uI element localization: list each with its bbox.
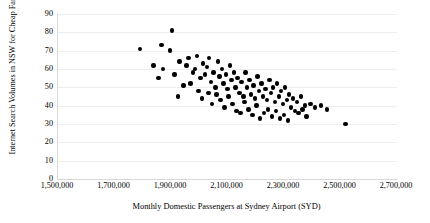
scatter-point [303, 103, 307, 107]
scatter-point [258, 116, 262, 120]
scatter-point [281, 102, 285, 106]
gridline [58, 51, 397, 52]
scatter-point [238, 111, 242, 115]
scatter-point [251, 83, 255, 87]
scatter-point [161, 67, 165, 71]
scatter-point [278, 116, 282, 120]
scatter-point [230, 102, 234, 106]
scatter-point [226, 94, 230, 98]
scatter-point [247, 78, 251, 82]
scatter-point [218, 98, 222, 102]
scatter-point [273, 100, 277, 104]
gridline [58, 32, 397, 33]
scatter-point [277, 94, 281, 98]
gridline [58, 142, 397, 143]
scatter-point [266, 107, 270, 111]
scatter-point [239, 80, 243, 84]
x-axis-tick-label: 2,700,000 [361, 181, 430, 191]
scatter-point [159, 43, 163, 47]
scatter-point [207, 56, 211, 60]
scatter-point [250, 113, 254, 117]
scatter-point [229, 78, 233, 82]
scatter-point [319, 103, 323, 107]
scatter-point [228, 63, 232, 67]
gridline [58, 14, 397, 15]
scatter-point [246, 107, 250, 111]
scatter-point [233, 85, 237, 89]
scatter-point [184, 63, 188, 67]
scatter-point [253, 96, 257, 100]
y-axis-tick-label: 50 [13, 82, 53, 92]
scatter-point [220, 67, 224, 71]
scatter-point [283, 85, 287, 89]
scatter-point [203, 72, 207, 76]
scatter-point [176, 94, 180, 98]
scatter-point [286, 118, 290, 122]
scatter-point [285, 98, 289, 102]
scatter-point [221, 81, 225, 85]
scatter-point [299, 94, 303, 98]
scatter-point [325, 107, 329, 111]
scatter-point [191, 70, 195, 74]
scatter-point [170, 28, 174, 32]
scatter-point [217, 74, 221, 78]
plot-area [57, 14, 397, 180]
y-axis-tick-label: 90 [13, 9, 53, 19]
scatter-point [265, 98, 269, 102]
scatter-point [274, 109, 278, 113]
scatter-point [304, 114, 308, 118]
scatter-point [156, 76, 160, 80]
scatter-point [188, 81, 192, 85]
scatter-point [222, 105, 226, 109]
y-axis-tick-label: 60 [13, 64, 53, 74]
scatter-point [225, 87, 229, 91]
scatter-point [181, 83, 185, 87]
scatter-point [243, 70, 247, 74]
scatter-point [271, 85, 275, 89]
scatter-point [242, 100, 246, 104]
gridline [58, 106, 397, 107]
scatter-point [138, 47, 142, 51]
scatter-point [269, 91, 273, 95]
scatter-point [245, 85, 249, 89]
scatter-point [200, 96, 204, 100]
gridline [58, 161, 397, 162]
y-axis-tick-label: 70 [13, 46, 53, 56]
y-axis-tick-label: 10 [13, 156, 53, 166]
scatter-point [209, 80, 213, 84]
scatter-point [196, 89, 200, 93]
scatter-point [259, 81, 263, 85]
scatter-point [193, 67, 197, 71]
scatter-point [267, 78, 271, 82]
scatter-point [198, 76, 202, 80]
scatter-point [195, 54, 199, 58]
x-axis-title: Monthly Domestic Passengers at Sydney Ai… [57, 202, 396, 211]
scatter-point [211, 70, 215, 74]
scatter-point [295, 100, 299, 104]
scatter-point [151, 63, 155, 67]
scatter-point [172, 72, 176, 76]
scatter-point [275, 81, 279, 85]
scatter-point [216, 59, 220, 63]
y-axis-tick-label: 30 [13, 119, 53, 129]
scatter-point [168, 48, 172, 52]
scatter-point [241, 94, 245, 98]
scatter-point [177, 59, 181, 63]
scatter-point [232, 70, 236, 74]
scatter-point [255, 74, 259, 78]
scatter-point [206, 91, 210, 95]
scatter-point [214, 92, 218, 96]
scatter-point [263, 87, 267, 91]
y-axis-tick-label: 80 [13, 27, 53, 37]
y-axis-tick-label: 40 [13, 101, 53, 111]
scatter-point [282, 113, 286, 117]
scatter-point [213, 85, 217, 89]
y-axis-tick-label: 20 [13, 137, 53, 147]
gridline [58, 69, 397, 70]
scatter-point [224, 72, 228, 76]
scatter-chart: Internet Search Volumes in NSW for Cheap… [0, 0, 430, 223]
scatter-point [186, 56, 190, 60]
scatter-point [313, 105, 317, 109]
scatter-point [308, 102, 312, 106]
scatter-point [257, 89, 261, 93]
